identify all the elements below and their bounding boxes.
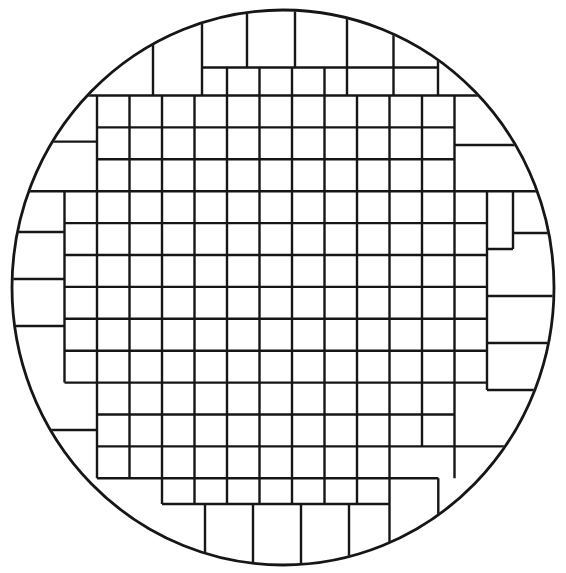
wafer-diagram [0, 0, 566, 573]
die-grid [0, 0, 566, 573]
wafer-svg [0, 0, 566, 573]
